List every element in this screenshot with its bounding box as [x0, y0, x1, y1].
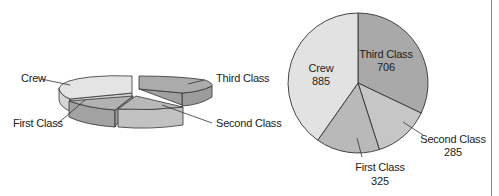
chart-canvas: Crew Third Class First Class Second Clas…: [0, 0, 499, 196]
label-3d-first-class: First Class: [13, 117, 63, 129]
label-third-class-name: Third Class: [359, 48, 413, 60]
label-3d-crew: Crew: [21, 72, 46, 84]
right-border-divider: [491, 0, 492, 196]
label-third-class-value: 706: [377, 61, 395, 73]
label-crew-name: Crew: [309, 62, 334, 74]
pie-chart-2d: [288, 13, 428, 153]
label-3d-second-class: Second Class: [216, 117, 282, 129]
label-3d-third-class: Third Class: [216, 72, 270, 84]
label-first-class-value: 325: [371, 175, 389, 187]
label-first-class-name: First Class: [355, 161, 405, 173]
label-second-class-value: 285: [444, 146, 462, 158]
label-second-class-name: Second Class: [420, 133, 486, 145]
label-crew-value: 885: [312, 75, 330, 87]
